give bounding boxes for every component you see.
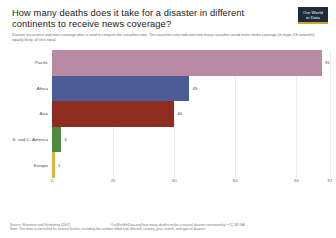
- plot-area: Pacific91Africa45Asia40S. and C. America…: [52, 50, 330, 178]
- bar-row[interactable]: S. and C. America3: [52, 127, 330, 153]
- bar[interactable]: [52, 76, 189, 102]
- bar-value-label: 40: [177, 111, 182, 116]
- x-axis-tick: 40: [172, 178, 177, 183]
- gridline: [330, 50, 331, 178]
- chart-page: How many deaths does it take for a disas…: [0, 0, 336, 238]
- page-title: How many deaths does it take for a disas…: [12, 8, 286, 30]
- bar-rows: Pacific91Africa45Asia40S. and C. America…: [52, 50, 330, 178]
- x-axis-tick: 60: [233, 178, 238, 183]
- our-world-in-data-logo[interactable]: Our World in Data: [298, 7, 328, 24]
- bar-row[interactable]: Pacific91: [52, 50, 330, 76]
- x-axis: 02040608091: [52, 178, 330, 192]
- x-axis-tick: 0: [51, 178, 53, 183]
- bar[interactable]: [52, 101, 174, 127]
- bar-value-label: 91: [325, 60, 330, 65]
- chart-subtitle: Disaster occurrence and news coverage da…: [12, 33, 322, 42]
- bar[interactable]: [52, 152, 55, 178]
- bar-row[interactable]: Asia40: [52, 101, 330, 127]
- chart-footer: Source: Eisensee and Strömberg (2007) Ou…: [10, 223, 330, 232]
- bar-chart: Pacific91Africa45Asia40S. and C. America…: [0, 50, 336, 208]
- bar-category-label: Asia: [39, 111, 48, 116]
- bar-row[interactable]: Africa45: [52, 76, 330, 102]
- bar-value-label: 1: [58, 163, 60, 168]
- bar[interactable]: [52, 50, 322, 76]
- footnote-text: Note: This data is controlled for severa…: [10, 227, 330, 232]
- x-axis-tick: 80: [294, 178, 299, 183]
- bar-category-label: Europe: [34, 163, 48, 168]
- bar-category-label: Africa: [37, 86, 48, 91]
- chart-header: How many deaths does it take for a disas…: [6, 8, 330, 42]
- logo-line-2: in Data: [306, 15, 320, 20]
- bar-category-label: S. and C. America: [13, 137, 48, 142]
- bar[interactable]: [52, 127, 61, 153]
- x-axis-tick: 91: [328, 178, 333, 183]
- bar-row[interactable]: Europe1: [52, 152, 330, 178]
- bar-category-label: Pacific: [35, 60, 48, 65]
- x-axis-tick: 20: [111, 178, 116, 183]
- bar-value-label: 45: [192, 86, 197, 91]
- bar-value-label: 3: [64, 137, 66, 142]
